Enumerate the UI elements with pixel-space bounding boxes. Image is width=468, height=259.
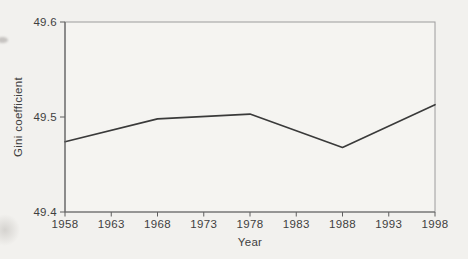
y-axis-ticks: 49.449.549.6 — [33, 16, 65, 218]
gini-line-chart: 195819631968197319781983198819931998 49.… — [0, 0, 468, 259]
x-tick-label: 1988 — [329, 218, 356, 230]
x-tick-label: 1968 — [144, 218, 171, 230]
y-axis-title: Gini coefficient — [12, 76, 24, 157]
y-tick-label: 49.6 — [33, 16, 57, 28]
x-axis-title: Year — [238, 236, 262, 248]
x-tick-label: 1983 — [283, 218, 310, 230]
x-tick-label: 1993 — [375, 218, 402, 230]
x-tick-label: 1973 — [190, 218, 217, 230]
x-tick-label: 1978 — [237, 218, 264, 230]
y-tick-label: 49.5 — [33, 111, 57, 123]
x-tick-label: 1963 — [98, 218, 125, 230]
y-tick-label: 49.4 — [33, 206, 57, 218]
plot-frame — [65, 22, 435, 212]
x-tick-label: 1998 — [422, 218, 449, 230]
gini-coefficient-figure: 195819631968197319781983198819931998 49.… — [0, 0, 468, 259]
x-tick-label: 1958 — [52, 218, 79, 230]
x-axis-ticks: 195819631968197319781983198819931998 — [52, 212, 449, 230]
